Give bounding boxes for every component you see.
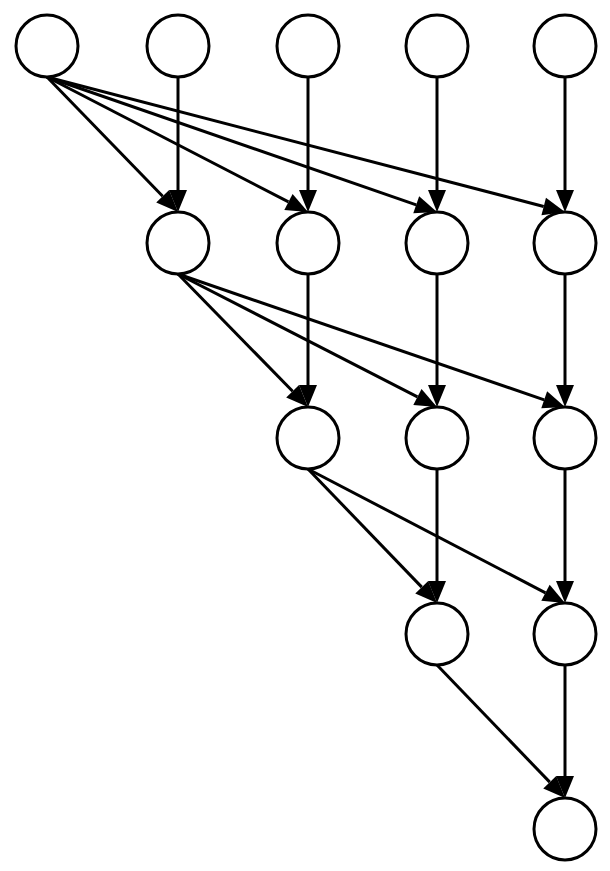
node-n1_1 bbox=[147, 212, 209, 274]
edge-n3_4-to-n4_4 bbox=[556, 665, 574, 798]
edge-n1_1-to-n2_4 bbox=[178, 274, 565, 408]
node-circle bbox=[277, 407, 339, 469]
nodes-layer bbox=[16, 15, 596, 860]
edge-n0_0-to-n1_3 bbox=[47, 77, 437, 213]
edge-n1_4-to-n2_4 bbox=[556, 274, 574, 407]
node-n0_0 bbox=[16, 15, 78, 77]
node-circle bbox=[147, 15, 209, 77]
node-circle bbox=[534, 798, 596, 860]
edge-n0_4-to-n1_4 bbox=[556, 77, 574, 212]
node-circle bbox=[406, 407, 468, 469]
edge-n3_3-to-n4_4 bbox=[437, 665, 565, 798]
edge-n0_1-to-n1_1 bbox=[169, 77, 187, 212]
edge-n2_3-to-n3_3 bbox=[428, 469, 446, 603]
edge-line bbox=[308, 469, 422, 587]
node-n4_4 bbox=[534, 798, 596, 860]
edge-n2_2-to-n3_3 bbox=[308, 469, 437, 603]
edge-line bbox=[47, 77, 416, 205]
node-circle bbox=[406, 603, 468, 665]
node-circle bbox=[406, 212, 468, 274]
edge-n1_2-to-n2_2 bbox=[299, 274, 317, 407]
dag-diagram bbox=[0, 0, 610, 871]
node-n0_2 bbox=[277, 15, 339, 77]
node-n1_3 bbox=[406, 212, 468, 274]
edge-line bbox=[47, 77, 163, 196]
edge-n0_3-to-n1_3 bbox=[428, 77, 446, 212]
node-circle bbox=[534, 212, 596, 274]
node-n0_3 bbox=[406, 15, 468, 77]
node-n2_4 bbox=[534, 407, 596, 469]
node-circle bbox=[147, 212, 209, 274]
node-circle bbox=[277, 15, 339, 77]
edge-line bbox=[178, 274, 544, 400]
node-n2_3 bbox=[406, 407, 468, 469]
edge-line bbox=[178, 274, 293, 391]
edge-n0_0-to-n1_1 bbox=[47, 77, 178, 212]
edge-line bbox=[308, 469, 545, 593]
node-circle bbox=[534, 15, 596, 77]
node-circle bbox=[534, 603, 596, 665]
edge-line bbox=[47, 77, 288, 202]
edge-line bbox=[178, 274, 417, 397]
edge-n1_3-to-n2_3 bbox=[428, 274, 446, 407]
node-circle bbox=[277, 212, 339, 274]
node-n0_4 bbox=[534, 15, 596, 77]
node-circle bbox=[406, 15, 468, 77]
node-circle bbox=[534, 407, 596, 469]
edge-n2_4-to-n3_4 bbox=[556, 469, 574, 603]
edge-line bbox=[47, 77, 544, 206]
node-n1_4 bbox=[534, 212, 596, 274]
node-n1_2 bbox=[277, 212, 339, 274]
edge-n1_1-to-n2_2 bbox=[178, 274, 308, 407]
node-n3_4 bbox=[534, 603, 596, 665]
edge-line bbox=[437, 665, 550, 782]
node-n3_3 bbox=[406, 603, 468, 665]
node-n2_2 bbox=[277, 407, 339, 469]
node-n0_1 bbox=[147, 15, 209, 77]
node-circle bbox=[16, 15, 78, 77]
